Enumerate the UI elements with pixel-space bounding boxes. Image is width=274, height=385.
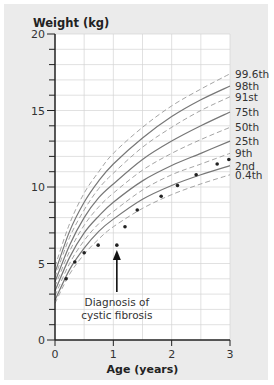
annotation-text-line1: Diagnosis of xyxy=(85,296,150,308)
x-tick-label: 2 xyxy=(168,348,175,361)
y-tick-label: 0 xyxy=(38,334,45,347)
percentile-label: 25th xyxy=(235,135,259,147)
y-tick-label: 15 xyxy=(31,105,45,118)
patient-data-point xyxy=(73,260,77,264)
patient-data-point xyxy=(194,173,198,177)
x-axis-title: Age (years) xyxy=(107,363,179,376)
x-tick-label: 3 xyxy=(227,348,234,361)
patient-data-point xyxy=(82,251,86,255)
y-axis-title: Weight (kg) xyxy=(33,16,109,30)
patient-data-point xyxy=(96,243,100,247)
patient-data-point xyxy=(135,208,139,212)
patient-data-point xyxy=(159,194,163,198)
percentile-label: 50th xyxy=(235,121,259,133)
y-tick-label: 10 xyxy=(31,181,45,194)
patient-data-point xyxy=(215,162,219,166)
patient-data-point xyxy=(123,225,127,229)
percentile-label: 75th xyxy=(235,106,259,118)
percentile-label: 0.4th xyxy=(235,169,262,181)
percentile-label: 91st xyxy=(235,91,258,103)
patient-data-point xyxy=(176,184,180,188)
y-tick-label: 5 xyxy=(38,258,45,271)
percentile-label: 99.6th xyxy=(235,68,269,80)
percentile-label: 9th xyxy=(235,147,252,159)
patient-data-point xyxy=(227,158,231,162)
patient-data-point xyxy=(64,277,68,281)
patient-data-point xyxy=(115,243,119,247)
x-tick-label: 1 xyxy=(110,348,117,361)
annotation-text-line2: cystic fibrosis xyxy=(81,309,152,321)
x-tick-label: 0 xyxy=(52,348,59,361)
growth-chart: 99.6th98th91st75th50th25th9th2nd0.4th051… xyxy=(0,0,274,385)
